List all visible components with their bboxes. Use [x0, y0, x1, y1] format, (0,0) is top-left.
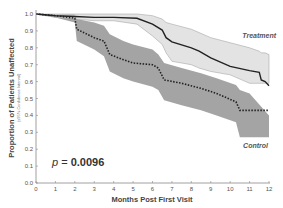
y-tick-label: 0.1: [25, 163, 34, 169]
x-tick-label: 1: [54, 186, 58, 192]
p-symbol: p: [51, 156, 58, 168]
x-tick-label: 2: [73, 186, 77, 192]
x-tick-label: 6: [151, 186, 155, 192]
y-tick-label: 0.5: [25, 96, 34, 102]
y-tick-label: 0.3: [25, 129, 34, 135]
x-axis-title: Months Post First Visit: [111, 195, 193, 204]
x-tick-label: 7: [170, 186, 174, 192]
y-axis-subtitle: (±95% Confidence Interval): [16, 73, 21, 122]
y-tick-label: 0.2: [25, 146, 34, 152]
x-tick-label: 11: [246, 186, 253, 192]
p-value-annotation: p = 0.0096: [51, 156, 104, 168]
x-tick-label: 12: [266, 186, 273, 192]
x-tick-label: 10: [227, 186, 234, 192]
survival-chart: 0123456789101112 0.00.10.20.30.40.50.60.…: [0, 0, 283, 208]
control-label: Control: [243, 142, 269, 149]
y-tick-label: 0.8: [25, 45, 34, 51]
y-tick-label: 0.9: [25, 28, 34, 34]
x-tick-label: 4: [112, 186, 116, 192]
x-tick-label: 8: [190, 186, 194, 192]
y-tick-label: 0.0: [25, 180, 34, 186]
x-tick-label: 0: [34, 186, 38, 192]
y-tick-label: 0.6: [25, 79, 34, 85]
y-axis-title: Proportion of Patients Unaffected: [7, 38, 16, 158]
confidence-bands: [36, 14, 269, 137]
y-tick-label: 0.7: [25, 62, 34, 68]
treatment-label: Treatment: [242, 32, 276, 39]
x-tick-label: 3: [93, 186, 97, 192]
p-value: 0.0096: [71, 156, 105, 168]
y-tick-label: 0.4: [25, 112, 34, 118]
x-tick-label: 9: [209, 186, 213, 192]
p-equals: =: [58, 156, 71, 168]
y-tick-label: 1.0: [25, 11, 34, 17]
x-tick-label: 5: [131, 186, 135, 192]
